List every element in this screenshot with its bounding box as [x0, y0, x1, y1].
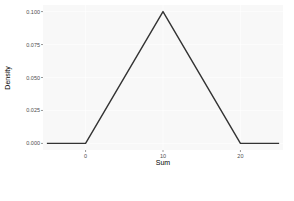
y-tick-label: 0.100: [26, 9, 40, 15]
x-axis-ticks: 01020: [84, 150, 243, 159]
y-tick-label: 0.050: [26, 75, 40, 81]
y-tick-label: 0.000: [26, 140, 40, 146]
x-axis-title: Sum: [156, 159, 171, 166]
y-axis-title: Density: [4, 66, 12, 90]
density-chart: 0.0000.0250.0500.0750.100 01020 Sum Dens…: [0, 0, 294, 201]
y-tick-label: 0.025: [26, 107, 40, 113]
x-tick-label: 20: [237, 153, 243, 159]
x-tick-label: 0: [84, 153, 87, 159]
y-tick-label: 0.075: [26, 42, 40, 48]
y-axis-ticks: 0.0000.0250.0500.0750.100: [26, 9, 43, 147]
